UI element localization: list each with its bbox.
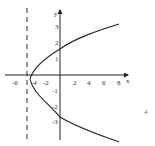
svg-text:-2: -2 — [43, 79, 49, 87]
svg-text:3: 3 — [55, 23, 59, 31]
svg-text:2: 2 — [73, 79, 77, 87]
svg-text:2: 2 — [55, 39, 59, 47]
svg-text:-4: -4 — [31, 79, 37, 87]
svg-text:6: 6 — [102, 79, 106, 87]
svg-text:-1: -1 — [52, 87, 58, 95]
svg-text:1: 1 — [55, 55, 59, 63]
svg-text:-2: -2 — [52, 103, 58, 111]
svg-text:8: 8 — [117, 79, 121, 87]
stray-annotation: 4 — [144, 108, 148, 116]
svg-text:4: 4 — [87, 79, 91, 87]
y-tick-labels: y 3 2 1 -1 -2 -3 — [52, 10, 59, 126]
x-axis-label: x — [126, 77, 130, 85]
svg-text:-6: -6 — [12, 79, 18, 87]
parabola-chart: -6 -4 -2 2 4 6 8 x y 3 2 1 -1 -2 -3 — [0, 0, 155, 146]
svg-text:-3: -3 — [52, 118, 58, 126]
y-axis-label: y — [54, 10, 58, 18]
